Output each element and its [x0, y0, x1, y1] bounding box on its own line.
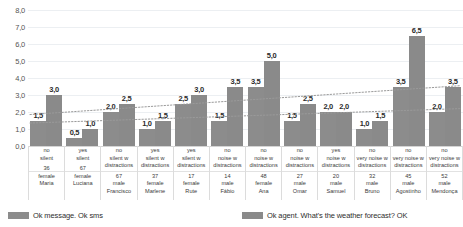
x-axis-cell-answer: no [391, 147, 426, 155]
x-axis-cell-age: 17 [174, 173, 209, 181]
bar-value-label: 2,5 [303, 94, 313, 103]
x-axis-cell-answer: no [101, 147, 136, 155]
x-axis-column: yesnoise w distractions20maleSamuel [317, 146, 353, 200]
x-axis-cell-answer: no [355, 147, 390, 155]
x-axis-cell-condition: silent [29, 155, 64, 163]
bar-series-1[interactable]: 1,0 [356, 129, 372, 146]
y-axis-tick-label: 2,0 [15, 108, 25, 117]
y-axis-tick-label: 5,0 [15, 57, 25, 66]
bar-series-2[interactable]: 3,0 [191, 95, 207, 146]
x-axis-cell-name: Fábio [210, 188, 245, 196]
x-axis-column: nonoise w distractions14maleFábio [209, 146, 245, 200]
bar-series-2[interactable]: 3,5 [227, 87, 243, 147]
y-axis-tick-label: 7,0 [15, 23, 25, 32]
bar-group: 2,03,5 [427, 0, 463, 146]
bar-series-1[interactable]: 1,0 [139, 129, 155, 146]
bar-series-2[interactable]: 1,5 [155, 121, 171, 147]
x-axis-cell-answer: no [210, 147, 245, 155]
x-axis-cell-name: Ana [246, 188, 281, 196]
bar-group: 2,53,0 [173, 0, 209, 146]
x-axis-cell-name: Mendonça [427, 188, 462, 196]
bar-series-1[interactable]: 2,0 [320, 112, 336, 146]
x-axis-labels: nosilent36femaleMariayessilent67femaleLu… [28, 146, 463, 200]
x-axis-cell-answer: no [246, 147, 281, 155]
x-axis-cell-name: Agostinho [391, 188, 426, 196]
bar-series-1[interactable]: 2,5 [175, 104, 191, 147]
bar-series-1[interactable]: 3,5 [248, 87, 264, 147]
bar-series-2[interactable]: 2,0 [336, 112, 352, 146]
bar-series-2[interactable]: 3,5 [445, 87, 461, 147]
y-axis-tick-label: 3,0 [15, 91, 25, 100]
bar-groups: 1,53,00,51,02,02,51,01,52,53,01,53,53,55… [28, 0, 463, 146]
x-axis-cell-gender: male [210, 180, 245, 188]
x-axis-cell-name: Omar [282, 188, 317, 196]
y-axis-tick-label: 0,0 [15, 142, 25, 151]
x-axis-column: yessilent67femaleLuciana [64, 146, 100, 200]
plot-area: 0,01,02,03,04,05,06,07,08,0 1,53,00,51,0… [0, 0, 463, 146]
bar-value-label: 3,0 [194, 85, 204, 94]
x-axis-cell-gender: male [391, 180, 426, 188]
bar-series-1[interactable]: 1,5 [284, 121, 300, 147]
bar-series-1[interactable]: 1,5 [30, 121, 46, 147]
x-axis-cell-condition: silent [65, 155, 100, 163]
x-axis-cell-name: Marlene [138, 188, 173, 196]
x-axis-cell-age: 48 [246, 173, 281, 181]
bar-value-label: 3,5 [448, 77, 458, 86]
x-axis-column: nonoise w distractions27maleOmar [281, 146, 317, 200]
bar-series-1[interactable]: 2,0 [103, 112, 119, 146]
x-axis-column: yessilent w distractions17femaleRute [173, 146, 209, 200]
bar-value-label: 2,5 [122, 94, 132, 103]
x-axis-cell-age: 37 [138, 173, 173, 181]
bar-group: 0,51,0 [64, 0, 100, 146]
x-axis-cell-answer: no [282, 147, 317, 155]
x-axis-cell-gender: male [282, 180, 317, 188]
bar-series-1[interactable]: 0,5 [66, 138, 82, 147]
x-axis-cell-name: Francisco [101, 188, 136, 196]
x-axis-cell-gender: female [174, 180, 209, 188]
x-axis-column: novery noise w distractions45maleAgostin… [390, 146, 426, 200]
bar-series-2[interactable]: 1,0 [82, 129, 98, 146]
x-axis-cell-gender: female [29, 173, 64, 181]
x-axis-cell-age: 27 [282, 173, 317, 181]
y-axis-tick-label: 4,0 [15, 74, 25, 83]
bar-value-label: 0,5 [70, 128, 80, 137]
x-axis-cell-answer: yes [318, 147, 353, 155]
bar-value-label: 2,0 [323, 102, 333, 111]
bar-group: 1,53,0 [28, 0, 64, 146]
legend-item-series-2[interactable]: Ok agent. What's the weather forecast? O… [242, 205, 407, 225]
bar-series-2[interactable]: 5,0 [264, 61, 280, 146]
x-axis-cell-gender: male [318, 180, 353, 188]
legend-label-series-2: Ok agent. What's the weather forecast? O… [267, 211, 407, 220]
x-axis-cell-age: 67 [101, 173, 136, 181]
bar-series-1[interactable]: 1,5 [211, 121, 227, 147]
grouped-bar-chart: 0,01,02,03,04,05,06,07,08,0 1,53,00,51,0… [0, 0, 463, 227]
bar-series-2[interactable]: 2,5 [119, 104, 135, 147]
bar-series-2[interactable]: 6,5 [409, 36, 425, 147]
x-axis-cell-age: 67 [65, 165, 100, 173]
bar-series-2[interactable]: 2,5 [300, 104, 316, 147]
legend-item-series-1[interactable]: Ok message. Ok sms [8, 205, 236, 225]
x-axis-column: novery noise w distractions52maleMendonç… [426, 146, 463, 200]
bar-series-1[interactable]: 2,0 [429, 112, 445, 146]
x-axis-cell-answer: yes [138, 147, 173, 155]
bar-value-label: 2,0 [432, 102, 442, 111]
y-axis-tick-label: 1,0 [15, 125, 25, 134]
x-axis-cell-name: Rute [174, 188, 209, 196]
x-axis-cell-name: Samuel [318, 188, 353, 196]
y-axis-tick-label: 8,0 [15, 6, 25, 15]
bar-value-label: 2,0 [339, 102, 349, 111]
bar-series-1[interactable]: 3,5 [393, 87, 409, 147]
bar-value-label: 3,5 [396, 77, 406, 86]
bar-value-label: 1,0 [142, 119, 152, 128]
x-axis-cell-gender: male [101, 180, 136, 188]
x-axis-column: yessilent w distractions37femaleMarlene [137, 146, 173, 200]
x-axis-cell-condition: silent w distractions [138, 155, 173, 170]
bar-series-2[interactable]: 1,5 [372, 121, 388, 147]
legend-swatch-icon-series-1 [8, 212, 29, 219]
x-axis-column: nosilent w distractions67maleFrancisco [100, 146, 136, 200]
x-axis-column: nonoise w distractions48femaleAna [245, 146, 281, 200]
x-axis-cell-age: 52 [427, 173, 462, 181]
x-axis-column: nosilent36femaleMaria [28, 146, 64, 200]
legend-swatch-icon-series-2 [242, 212, 263, 219]
bar-series-2[interactable]: 3,0 [46, 95, 62, 146]
